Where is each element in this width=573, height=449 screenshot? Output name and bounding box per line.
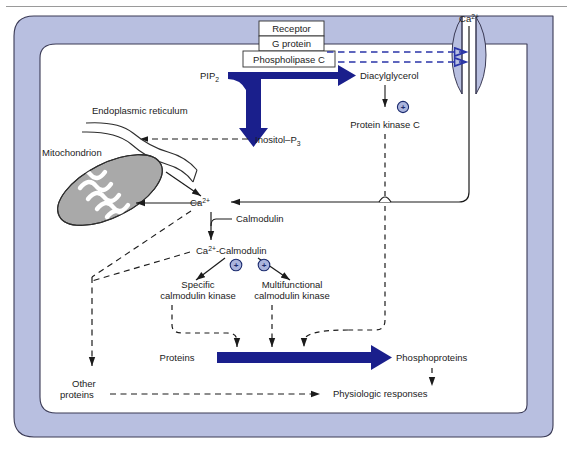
calmodulin-label: Calmodulin (236, 213, 284, 224)
multifunctional-kinase-label-line1: Multifunctional (262, 279, 323, 290)
mitochondrion-label: Mitochondrion (42, 147, 102, 158)
multifunctional-kinase-plus-symbol: + (262, 261, 267, 270)
specific-kinase-activation-badge: + (230, 259, 242, 271)
receptor-box[interactable]: Receptor (259, 21, 324, 36)
phosphoproteins-label: Phosphoproteins (396, 352, 468, 363)
diacylglycerol-label: Diacylglycerol (360, 70, 419, 81)
pkc-plus-symbol: + (401, 103, 406, 112)
phospholipase-c-label: Phospholipase C (253, 54, 325, 65)
multifunctional-kinase-activation-badge: + (258, 259, 270, 271)
g-protein-label: G protein (272, 38, 311, 49)
g-protein-box[interactable]: G protein (259, 36, 324, 51)
multifunctional-kinase-label-line2: calmodulin kinase (254, 290, 330, 301)
specific-kinase-label-line2: calmodulin kinase (160, 290, 236, 301)
ca-calmodulin-label: Ca2+-Calmodulin (196, 245, 267, 257)
phospholipase-c-box[interactable]: Phospholipase C (243, 51, 335, 67)
receptor-label: Receptor (272, 23, 311, 34)
proteins-label: Proteins (160, 352, 195, 363)
pkc-activation-badge: + (397, 101, 408, 112)
endoplasmic-reticulum-label: Endoplasmic reticulum (92, 105, 188, 116)
figure-canvas: Receptor G protein Phospholipase C PIP2 … (0, 0, 573, 449)
specific-kinase-plus-symbol: + (234, 261, 239, 270)
specific-kinase-label-line1: Specific (181, 279, 215, 290)
protein-kinase-c-label: Protein kinase C (350, 119, 420, 130)
physiologic-responses-label: Physiologic responses (333, 388, 428, 399)
other-proteins-label-line2: proteins (60, 389, 94, 400)
other-proteins-label-line1: Other (72, 378, 96, 389)
signaling-pathway-diagram: Receptor G protein Phospholipase C PIP2 … (0, 0, 573, 449)
